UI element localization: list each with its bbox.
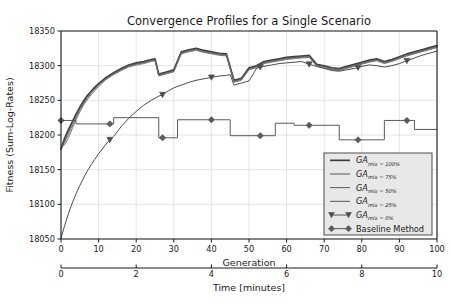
y-axis-label: Fitness (Sum-Log-Rates) (4, 77, 15, 192)
legend-label-base: GA (356, 155, 368, 165)
y-tick-label: 18100 (29, 199, 55, 209)
time-tick-label: 2 (134, 269, 139, 279)
time-tick-label: 10 (432, 269, 442, 279)
y-tick-label: 18350 (29, 26, 55, 36)
y-tick-label: 18200 (29, 130, 55, 140)
x-tick-label: 80 (357, 244, 367, 254)
x-tick-label: 20 (131, 244, 141, 254)
y-tick-label: 18150 (29, 165, 55, 175)
time-tick-label: 8 (359, 269, 364, 279)
legend-label-base: GA (356, 210, 368, 220)
chart-title: Convergence Profiles for a Single Scenar… (127, 14, 371, 28)
time-tick-label: 6 (284, 269, 289, 279)
x-tick-label: 30 (169, 244, 179, 254)
legend-label-subscript: mix = 50% (368, 188, 397, 194)
x-tick-label: 50 (244, 244, 254, 254)
x-tick-label: 10 (93, 244, 103, 254)
chart-svg: 0102030405060708090100180501810018150182… (0, 0, 452, 303)
y-tick-label: 18250 (29, 95, 55, 105)
legend-label-subscript: mix = 100% (368, 161, 400, 167)
x-tick-label: 60 (281, 244, 291, 254)
x-axis-label: Generation (223, 257, 276, 268)
time-tick-label: 0 (58, 269, 63, 279)
x-tick-label: 70 (319, 244, 329, 254)
x-tick-label: 40 (206, 244, 216, 254)
legend-label: Baseline Method (356, 224, 424, 234)
x-tick-label: 0 (58, 244, 63, 254)
legend-label-subscript: mix = 75% (368, 174, 397, 180)
legend-label-base: GA (356, 169, 368, 179)
legend-label-base: GA (356, 196, 368, 206)
time-axis-label: Time [minutes] (212, 282, 285, 293)
legend-label-subscript: mix = 25% (368, 202, 397, 208)
legend-label-base: GA (356, 183, 368, 193)
chart-figure: 0102030405060708090100180501810018150182… (0, 0, 452, 303)
x-tick-label: 90 (394, 244, 404, 254)
y-tick-label: 18050 (29, 234, 55, 244)
legend[interactable]: GAmix = 100%GAmix = 75%GAmix = 50%GAmix … (324, 153, 432, 235)
time-tick-label: 4 (209, 269, 214, 279)
x-tick-label: 100 (429, 244, 445, 254)
y-tick-label: 18300 (29, 61, 55, 71)
legend-label-subscript: mix = 0% (368, 215, 394, 221)
